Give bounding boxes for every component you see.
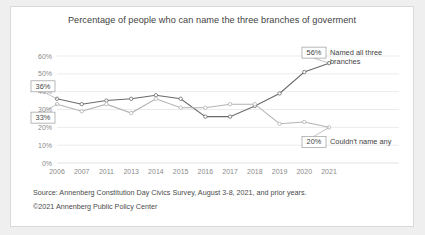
data-point-marker xyxy=(55,97,58,100)
data-point-marker xyxy=(129,111,132,114)
data-point-marker xyxy=(80,110,83,113)
data-point-marker xyxy=(278,92,281,95)
y-axis-tick-label: 20% xyxy=(38,124,52,131)
x-axis-tick-label: 2014 xyxy=(148,168,164,175)
legend-label: Couldn't name any xyxy=(330,137,392,146)
x-axis-tick-label: 2016 xyxy=(198,168,214,175)
data-point-marker xyxy=(80,102,83,105)
series-markers-group xyxy=(55,61,330,129)
chart-plot-area: 0%10%20%30%40%50%60% 2006200720112013201… xyxy=(11,35,415,180)
y-axis-tick-label: 10% xyxy=(38,142,52,149)
series-line xyxy=(57,99,329,128)
data-point-marker xyxy=(253,102,256,105)
footer-copyright: ©2021 Annenberg Public Policy Center xyxy=(33,200,403,214)
x-axis-tick-label: 2019 xyxy=(272,168,288,175)
series-lines-group xyxy=(57,63,329,127)
data-point-marker xyxy=(105,99,108,102)
y-axis-ticks-group: 0%10%20%30%40%50%60% xyxy=(38,53,52,167)
chart-card: Percentage of people who can name the th… xyxy=(10,6,414,227)
y-axis-tick-label: 50% xyxy=(38,70,52,77)
data-point-marker xyxy=(303,70,306,73)
gridlines-group xyxy=(57,56,399,163)
x-axis-tick-label: 2007 xyxy=(74,168,90,175)
data-point-marker xyxy=(179,106,182,109)
data-point-marker xyxy=(278,122,281,125)
callout-value-label: 36% xyxy=(36,82,51,91)
data-point-marker xyxy=(303,120,306,123)
legend-group: Named all threebranchesCouldn't name any xyxy=(330,48,392,146)
data-point-marker xyxy=(179,97,182,100)
data-point-marker xyxy=(204,106,207,109)
data-point-marker xyxy=(129,97,132,100)
chart-title: Percentage of people who can name the th… xyxy=(11,15,413,25)
x-axis-tick-label: 2018 xyxy=(247,168,263,175)
chart-footer: Source: Annenberg Constitution Day Civic… xyxy=(33,186,403,214)
data-point-marker xyxy=(105,102,108,105)
x-axis-tick-label: 2006 xyxy=(49,168,65,175)
legend-label: Named all three xyxy=(330,48,382,57)
line-chart-svg: 0%10%20%30%40%50%60% 2006200720112013201… xyxy=(11,35,415,180)
data-point-marker xyxy=(204,115,207,118)
x-axis-tick-label: 2013 xyxy=(123,168,139,175)
callout-leader-line xyxy=(314,58,329,63)
callout-value-label: 33% xyxy=(36,113,51,122)
data-point-marker xyxy=(154,97,157,100)
x-axis-tick-label: 2021 xyxy=(321,168,337,175)
x-axis-tick-label: 2017 xyxy=(222,168,238,175)
x-axis-tick-label: 2015 xyxy=(173,168,189,175)
callout-value-label: 56% xyxy=(307,48,322,57)
y-axis-tick-label: 60% xyxy=(38,53,52,60)
footer-source: Source: Annenberg Constitution Day Civic… xyxy=(33,186,403,200)
data-point-marker xyxy=(154,94,157,97)
legend-label-line2: branches xyxy=(330,57,361,66)
data-point-marker xyxy=(228,115,231,118)
x-axis-tick-label: 2020 xyxy=(296,168,312,175)
callout-value-label: 20% xyxy=(307,137,322,146)
x-axis-tick-label: 2011 xyxy=(99,168,114,175)
callout-leader-line xyxy=(314,127,329,136)
x-axis-ticks-group: 2006200720112013201420152016201720182019… xyxy=(49,168,337,175)
y-axis-tick-label: 0% xyxy=(42,160,52,167)
data-point-marker xyxy=(228,102,231,105)
series-line xyxy=(57,63,329,117)
